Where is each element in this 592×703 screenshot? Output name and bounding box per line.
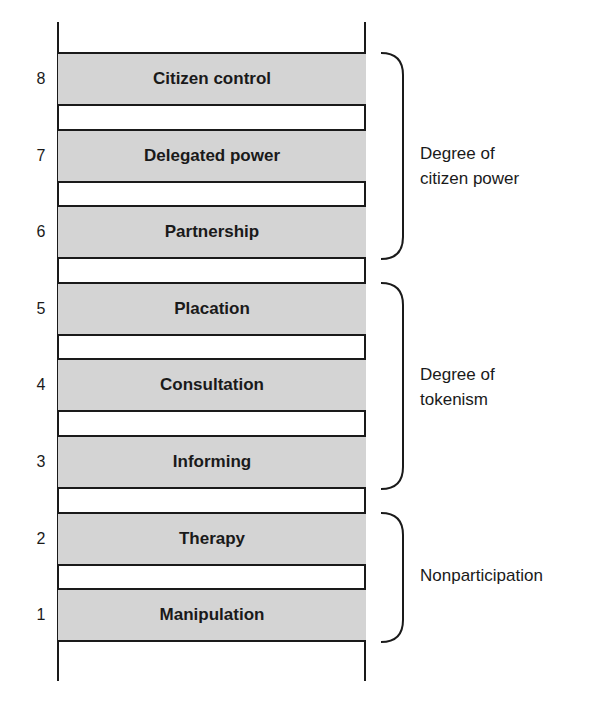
group-label-line: Degree of [420,362,495,387]
group-label-line: citizen power [420,166,519,191]
group-label-nonparticipation: Nonparticipation [420,563,543,588]
group-braces [0,0,592,703]
group-label-line: Nonparticipation [420,563,543,588]
group-label-line: tokenism [420,387,495,412]
group-label-line: Degree of [420,141,519,166]
brace-tokenism [381,283,403,489]
group-label-citizen-power: Degree of citizen power [420,141,519,191]
brace-citizen-power [381,53,403,259]
brace-nonparticipation [381,513,403,642]
group-label-tokenism: Degree of tokenism [420,362,495,412]
